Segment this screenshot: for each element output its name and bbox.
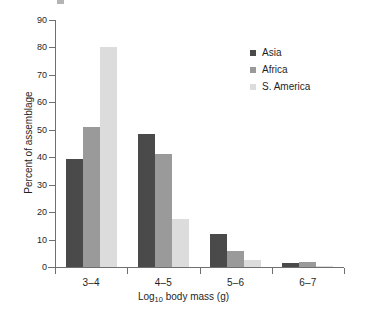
legend-item-label: Africa [262, 64, 288, 75]
y-axis-tick [49, 102, 55, 103]
y-axis-tick-label: 80 [25, 43, 47, 52]
legend-item-asia: Asia [250, 44, 310, 61]
bar-s-america-4-5 [172, 219, 189, 267]
bar-asia-5-6 [210, 234, 227, 267]
bar-africa-5-6 [227, 251, 244, 267]
legend-item-africa: Africa [250, 61, 310, 78]
y-axis-title: Percent of assemblage [23, 63, 34, 223]
bar-asia-3-4 [66, 159, 83, 267]
bar-chart: 0102030405060708090 3–44–55–66–7 Percent… [0, 0, 367, 312]
y-axis-tick [49, 75, 55, 76]
y-axis-tick [49, 20, 55, 21]
x-axis-tick-label: 3–4 [61, 277, 121, 288]
x-axis-title-base: Log [138, 291, 155, 302]
y-axis-line [55, 20, 56, 268]
y-axis-tick [49, 47, 55, 48]
legend-item-s-america: S. America [250, 78, 310, 95]
y-axis-tick [49, 185, 55, 186]
x-axis-tick-label: 4–5 [133, 277, 193, 288]
legend-item-label: Asia [262, 47, 281, 58]
bar-asia-4-5 [138, 134, 155, 267]
bar-s-america-5-6 [244, 260, 261, 267]
x-axis-title: Log10 body mass (g) [0, 291, 367, 303]
legend-swatch-icon [250, 67, 256, 73]
bar-s-america-3-4 [100, 47, 117, 267]
y-axis-tick [49, 212, 55, 213]
bar-africa-3-4 [83, 127, 100, 267]
x-axis-tick [127, 268, 128, 274]
x-axis-title-rest: body mass (g) [163, 291, 229, 302]
x-axis-line [48, 267, 344, 268]
y-axis-tick [49, 157, 55, 158]
x-axis-tick [55, 268, 56, 274]
x-axis-tick [200, 268, 201, 274]
y-axis-tick-label: 90 [25, 16, 47, 25]
cropped-top-artifact [57, 0, 64, 4]
legend-item-label: S. America [262, 81, 310, 92]
legend-swatch-icon [250, 50, 256, 56]
x-axis-tick [272, 268, 273, 274]
x-axis-title-subscript: 10 [155, 295, 163, 304]
y-axis-tick-label: 10 [25, 236, 47, 245]
y-axis-tick-label: 0 [25, 263, 47, 272]
bar-africa-4-5 [155, 154, 172, 267]
legend-swatch-icon [250, 84, 256, 90]
y-axis-tick [49, 240, 55, 241]
bar-asia-6-7 [282, 263, 299, 267]
x-axis-tick [344, 268, 345, 274]
x-axis-tick-label: 6–7 [278, 277, 338, 288]
x-axis-tick-label: 5–6 [206, 277, 266, 288]
y-axis-tick [49, 130, 55, 131]
chart-legend: AsiaAfricaS. America [250, 44, 310, 95]
bar-s-america-6-7 [316, 266, 333, 267]
bar-africa-6-7 [299, 262, 316, 267]
